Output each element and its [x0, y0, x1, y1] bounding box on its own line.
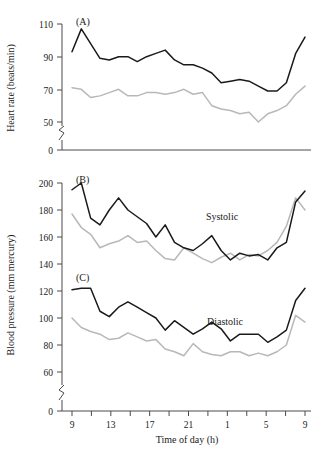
y-axis-label-blood-pressure: Blood pressure (mm mercury) — [5, 235, 17, 356]
panel-c-label: (C) — [76, 272, 89, 284]
panel-b-ytick-160: 160 — [39, 233, 54, 243]
panel-a-series-dark — [72, 29, 305, 91]
panel-a-ytick-0: 0 — [48, 146, 53, 156]
panel-c-ytick-120: 120 — [39, 287, 54, 297]
panel-c-series-dark — [72, 288, 305, 342]
panel-a-axis-break-icon — [59, 126, 64, 140]
panel-a-ytick-110: 110 — [39, 20, 53, 30]
panel-a-ytick-50: 50 — [44, 118, 54, 128]
x-axis-tick-label: 9 — [303, 420, 308, 430]
panel-b-series-light — [72, 198, 305, 263]
panel-b-ytick-180: 180 — [39, 206, 54, 216]
y-axis-label-heart-rate: Heart rate (beats/min) — [5, 44, 17, 132]
x-axis-tick-label: 1 — [225, 420, 230, 430]
panel-b-ytick-200: 200 — [39, 179, 54, 189]
panel-c: 120 100 80 60 0 (C) Diastolic 9131721159… — [39, 272, 311, 446]
x-axis-tick-label: 13 — [106, 420, 116, 430]
panel-c-y-ticks — [57, 291, 62, 411]
panel-c-ytick-60: 60 — [44, 368, 54, 378]
panel-b-ytick-140: 140 — [39, 260, 54, 270]
x-axis-tick-label: 9 — [70, 420, 75, 430]
panel-c-ytick-0: 0 — [48, 407, 53, 417]
panel-c-annotation-diastolic: Diastolic — [207, 316, 244, 327]
chart-svg: Heart rate (beats/min) 110 90 70 50 0 — [0, 0, 322, 451]
panel-c-ytick-80: 80 — [44, 341, 54, 351]
x-axis-tick-label: 5 — [264, 420, 269, 430]
x-axis-ticks — [72, 411, 305, 416]
panel-a-ytick-70: 70 — [44, 86, 54, 96]
panel-a-label: (A) — [76, 16, 90, 28]
panel-a-ytick-90: 90 — [44, 53, 54, 63]
x-axis-tick-label: 17 — [145, 420, 155, 430]
panel-c-axis-break-icon — [59, 385, 64, 400]
x-axis-tick-label: 21 — [184, 420, 194, 430]
x-axis-label-time-of-day: Time of day (h) — [156, 434, 219, 446]
panel-b-y-ticks — [57, 183, 62, 264]
x-axis-tick-labels: 9131721159 — [70, 420, 308, 430]
figure-container: Heart rate (beats/min) 110 90 70 50 0 — [0, 0, 322, 451]
panel-a: Heart rate (beats/min) 110 90 70 50 0 — [5, 16, 311, 156]
panel-b-label: (B) — [76, 174, 89, 186]
panel-c-ytick-100: 100 — [39, 314, 54, 324]
panel-b-annotation-systolic: Systolic — [206, 211, 239, 222]
panel-c-series-light — [72, 315, 305, 356]
